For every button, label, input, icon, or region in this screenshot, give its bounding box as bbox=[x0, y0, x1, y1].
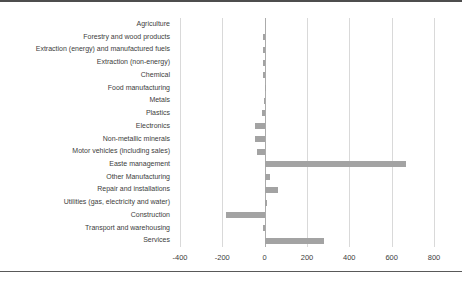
category-label: Food manufacturing bbox=[0, 82, 170, 95]
document-page: -400-2000200400600800AgricultureForestry… bbox=[0, 0, 462, 285]
bar-easte-management bbox=[265, 161, 407, 167]
bar-food-manufacturing bbox=[265, 85, 266, 91]
category-label: Agriculture bbox=[0, 18, 170, 31]
category-label: Extraction (non-energy) bbox=[0, 56, 170, 69]
category-label: Transport and warehousing bbox=[0, 222, 170, 235]
bar-electronics bbox=[255, 123, 265, 129]
gridline bbox=[180, 18, 181, 247]
x-axis-tick-label: 200 bbox=[285, 253, 329, 262]
bar-plastics bbox=[262, 110, 265, 116]
bar-chart: -400-2000200400600800AgricultureForestry… bbox=[0, 0, 462, 270]
category-label: Repair and installations bbox=[0, 183, 170, 196]
category-label: Extraction (energy) and manufactured fue… bbox=[0, 43, 170, 56]
gridline bbox=[307, 18, 308, 247]
x-axis-tick-label: -400 bbox=[158, 253, 202, 262]
bar-other-manufacturing bbox=[265, 174, 270, 180]
bar-motor-vehicles-including-sales bbox=[257, 149, 265, 155]
category-label: Metals bbox=[0, 94, 170, 107]
bar-forestry-and-wood-products bbox=[263, 34, 265, 40]
gridline bbox=[392, 18, 393, 247]
page-bottom-border bbox=[0, 271, 462, 272]
bar-transport-and-warehousing bbox=[263, 225, 264, 231]
category-label: Forestry and wood products bbox=[0, 31, 170, 44]
category-label: Electronics bbox=[0, 120, 170, 133]
x-axis-tick-label: 0 bbox=[243, 253, 287, 262]
bar-chemical bbox=[263, 72, 265, 78]
category-label: Non-metallic minerals bbox=[0, 133, 170, 146]
category-label: Easte management bbox=[0, 158, 170, 171]
category-label: Motor vehicles (including sales) bbox=[0, 145, 170, 158]
gridline bbox=[434, 18, 435, 247]
zero-axis-line bbox=[265, 18, 266, 247]
category-label: Construction bbox=[0, 209, 170, 222]
bar-repair-and-installations bbox=[265, 187, 278, 193]
category-label: Utilities (gas, electricity and water) bbox=[0, 196, 170, 209]
bar-construction bbox=[226, 212, 265, 218]
x-axis-tick-label: -200 bbox=[200, 253, 244, 262]
bar-non-metallic-minerals bbox=[255, 136, 265, 142]
bar-extraction-non-energy bbox=[263, 60, 265, 66]
x-axis-tick-label: 800 bbox=[412, 253, 456, 262]
category-label: Services bbox=[0, 234, 170, 247]
category-label: Chemical bbox=[0, 69, 170, 82]
x-axis-tick-label: 600 bbox=[370, 253, 414, 262]
category-label: Other Manufacturing bbox=[0, 171, 170, 184]
bar-extraction-energy-and-manufactured-fuels bbox=[263, 47, 265, 53]
category-label: Plastics bbox=[0, 107, 170, 120]
x-axis-tick-label: 400 bbox=[327, 253, 371, 262]
bar-utilities-gas-electricity-and-water bbox=[265, 200, 267, 206]
bar-services bbox=[265, 238, 325, 244]
gridline bbox=[222, 18, 223, 247]
gridline bbox=[349, 18, 350, 247]
